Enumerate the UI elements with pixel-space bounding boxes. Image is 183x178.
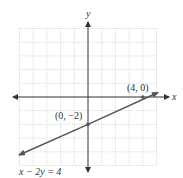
point-x-intercept bbox=[141, 95, 145, 99]
point-y-intercept bbox=[86, 123, 90, 127]
y-axis-label: y bbox=[85, 8, 91, 19]
x-axis-label: x bbox=[171, 91, 177, 102]
coordinate-plane: y x (4, 0) (0, −2) x − 2y = 4 bbox=[0, 0, 183, 178]
axes bbox=[13, 22, 169, 172]
equation-label: x − 2y = 4 bbox=[18, 166, 61, 177]
x-intercept-label: (4, 0) bbox=[127, 82, 149, 94]
y-intercept-label: (0, −2) bbox=[55, 110, 82, 122]
